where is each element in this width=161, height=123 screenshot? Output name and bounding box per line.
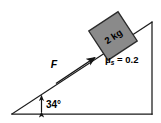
diagram-canvas: 2 kg F μs = 0.2 34° [0,0,161,123]
mu-equals: = [114,54,125,65]
force-label-F: F [51,58,58,70]
force-arrow-group: F [51,58,95,84]
mu-value: 0.2 [125,54,138,65]
force-arrow [56,58,95,84]
angle-indicator-group: 34° [42,96,62,113]
friction-coefficient-label: μs = 0.2 [105,54,138,66]
incline-angle-label: 34° [46,99,61,110]
friction-coefficient-group: μs = 0.2 [105,54,138,66]
inclined-plane-diagram: 2 kg F μs = 0.2 34° [0,0,161,123]
block-on-incline: 2 kg [89,12,137,60]
